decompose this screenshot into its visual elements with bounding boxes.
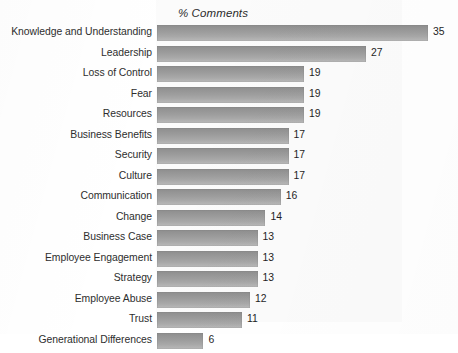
category-label: Business Benefits	[70, 129, 152, 140]
category-label: Knowledge and Understanding	[11, 26, 152, 37]
category-label: Communication	[80, 190, 152, 201]
bar	[157, 189, 281, 205]
bar-row: Resources19	[0, 107, 458, 123]
bar-value-label: 17	[294, 129, 306, 140]
bar	[157, 169, 289, 185]
bar-value-label: 6	[208, 334, 214, 345]
category-label: Loss of Control	[83, 67, 152, 78]
bar	[157, 292, 250, 308]
bar	[157, 25, 428, 41]
bar	[157, 128, 289, 144]
category-label: Employee Abuse	[75, 293, 152, 304]
bar-row: Culture17	[0, 169, 458, 185]
bar-value-label: 17	[294, 149, 306, 160]
bar-value-label: 17	[294, 170, 306, 181]
bar-value-label: 19	[309, 67, 321, 78]
category-label: Leadership	[101, 47, 152, 58]
bar-row: Communication16	[0, 189, 458, 205]
bar-value-label: 12	[255, 293, 267, 304]
bar	[157, 148, 289, 164]
bar	[157, 66, 304, 82]
bar	[157, 87, 304, 103]
category-label: Security	[115, 149, 152, 160]
bar-value-label: 13	[263, 252, 275, 263]
bar-row: Change14	[0, 210, 458, 226]
bar-row: Loss of Control19	[0, 66, 458, 82]
bar-row: Employee Engagement13	[0, 251, 458, 267]
bar	[157, 333, 203, 349]
category-label: Strategy	[114, 272, 152, 283]
bar-row: Strategy13	[0, 271, 458, 287]
category-label: Generational Differences	[38, 334, 152, 345]
category-label: Business Case	[83, 231, 152, 242]
bar-row: Knowledge and Understanding35	[0, 25, 458, 41]
bar-row: Employee Abuse12	[0, 292, 458, 308]
bar-row: Fear19	[0, 87, 458, 103]
bar-row: Business Case13	[0, 230, 458, 246]
bar-value-label: 13	[263, 272, 275, 283]
chart-title: % Comments	[178, 7, 248, 19]
bar-rows: Knowledge and Understanding35Leadership2…	[0, 25, 458, 353]
bar	[157, 271, 258, 287]
bar-row: Security17	[0, 148, 458, 164]
bar-row: Generational Differences6	[0, 333, 458, 349]
category-label: Employee Engagement	[45, 252, 152, 263]
bar-value-label: 13	[263, 231, 275, 242]
bar	[157, 312, 242, 328]
bar-row: Trust11	[0, 312, 458, 328]
bar-row: Leadership27	[0, 46, 458, 62]
bar	[157, 107, 304, 123]
category-label: Fear	[131, 88, 152, 99]
bar	[157, 251, 258, 267]
bar	[157, 210, 265, 226]
bar-value-label: 27	[371, 47, 383, 58]
bar-value-label: 11	[247, 313, 258, 324]
bar-value-label: 14	[270, 211, 282, 222]
category-label: Change	[116, 211, 152, 222]
bar	[157, 46, 366, 62]
bar-value-label: 19	[309, 88, 321, 99]
bar-row: Business Benefits17	[0, 128, 458, 144]
bar-value-label: 35	[433, 26, 445, 37]
category-label: Trust	[129, 313, 152, 324]
category-label: Resources	[103, 108, 152, 119]
bar-value-label: 16	[286, 190, 298, 201]
bar-value-label: 19	[309, 108, 321, 119]
category-label: Culture	[119, 170, 152, 181]
bar	[157, 230, 258, 246]
